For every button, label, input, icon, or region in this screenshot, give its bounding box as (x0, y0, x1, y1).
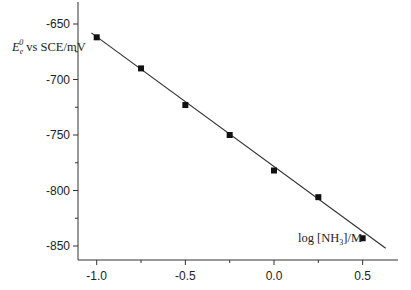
data-point (315, 194, 321, 200)
data-point (271, 168, 277, 174)
data-point (138, 65, 144, 71)
data-point (182, 102, 188, 108)
x-tick-label: 0.0 (266, 269, 283, 283)
x-tick-label: 0.5 (354, 269, 371, 283)
y-tick-label: -850 (46, 239, 70, 253)
data-point (227, 132, 233, 138)
x-tick-label: -0.5 (175, 269, 196, 283)
y-tick-label: -650 (46, 17, 70, 31)
chart: -650-700-750-800-850-1.0-0.50.00.5 Ee0 v… (0, 0, 411, 290)
y-tick-label: -700 (46, 73, 70, 87)
fit-line (91, 33, 385, 248)
y-tick-label: -750 (46, 128, 70, 142)
data-point (94, 34, 100, 40)
data-points (94, 34, 366, 241)
x-axis-title: log [NH3]/M (298, 231, 362, 247)
y-tick-label: -800 (46, 184, 70, 198)
y-axis-title: Ee0 vs SCE/mV (11, 38, 86, 56)
x-tick-label: -1.0 (86, 269, 107, 283)
